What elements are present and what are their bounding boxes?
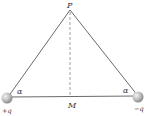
label-angle-left: α: [17, 87, 23, 96]
label-apex: P: [66, 1, 73, 10]
dipole-triangle-diagram: P M α α +q −q: [0, 0, 146, 116]
label-midpoint: M: [67, 101, 77, 110]
charge-sphere-positive: [2, 93, 13, 104]
label-angle-right: α: [123, 86, 129, 95]
label-charge-negative: −q: [134, 105, 144, 113]
side-right: [70, 10, 138, 96]
side-left: [8, 10, 70, 97]
label-charge-positive: +q: [2, 107, 12, 115]
baseline: [8, 96, 138, 97]
charge-sphere-negative: [133, 92, 144, 103]
